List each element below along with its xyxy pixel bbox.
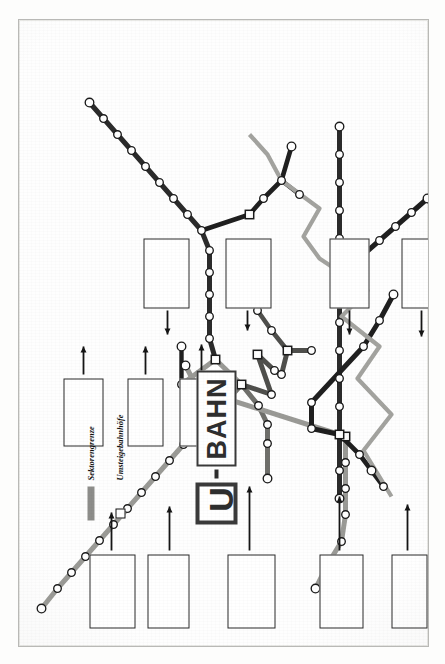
station-node[interactable]: [335, 178, 343, 186]
station-node[interactable]: [359, 342, 367, 350]
ubahn-map: Sektorengrenze Umsteigebahnhöfe U BAHN: [19, 20, 428, 646]
station-node[interactable]: [205, 290, 213, 298]
station-node[interactable]: [335, 374, 343, 382]
station-node[interactable]: [407, 208, 415, 216]
station-node[interactable]: [169, 194, 177, 202]
annotation-note: [319, 554, 363, 628]
station-node[interactable]: [197, 226, 205, 234]
station-node[interactable]: [267, 390, 275, 398]
interchange-station-node[interactable]: [253, 350, 261, 358]
station-node[interactable]: [267, 326, 275, 334]
annotation-arrow: [142, 346, 148, 374]
annotation-arrow: [346, 310, 352, 334]
annotation-note: [401, 238, 429, 308]
station-node[interactable]: [335, 346, 343, 354]
station-node[interactable]: [307, 424, 315, 432]
station-node[interactable]: [295, 190, 303, 198]
station-node[interactable]: [307, 346, 315, 354]
annotation-note: [329, 238, 369, 308]
station-node[interactable]: [335, 466, 343, 474]
annotation-note: [391, 554, 427, 628]
station-node[interactable]: [205, 312, 213, 320]
station-node[interactable]: [137, 488, 145, 496]
ubahn-logo: U BAHN: [187, 324, 247, 524]
station-node[interactable]: [95, 536, 103, 544]
map-rotation-wrapper: Sektorengrenze Umsteigebahnhöfe U BAHN: [19, 20, 428, 646]
station-node[interactable]: [263, 474, 272, 483]
annotation-note: [143, 238, 189, 308]
map-legend: Sektorengrenze Umsteigebahnhöfe: [47, 320, 137, 520]
station-node[interactable]: [335, 122, 344, 131]
map-paper: Sektorengrenze Umsteigebahnhöfe U BAHN: [18, 19, 429, 647]
logo-u-glyph: U: [199, 478, 241, 520]
station-node[interactable]: [254, 401, 262, 409]
station-node[interactable]: [165, 456, 173, 464]
legend-sector-label: Sektorengrenze: [85, 426, 95, 480]
station-node[interactable]: [337, 537, 345, 545]
screenshot-canvas: Sektorengrenze Umsteigebahnhöfe U BAHN: [0, 0, 445, 664]
annotation-arrow: [164, 310, 170, 334]
station-node[interactable]: [205, 268, 213, 276]
interchange-station-node[interactable]: [283, 346, 291, 354]
legend-sector-bar: [87, 486, 94, 520]
station-node[interactable]: [263, 439, 271, 447]
station-node[interactable]: [155, 178, 163, 186]
station-node[interactable]: [391, 222, 399, 230]
logo-bahn-text: BAHN: [201, 377, 232, 459]
station-node[interactable]: [99, 114, 107, 122]
station-node[interactable]: [335, 318, 343, 326]
station-node[interactable]: [127, 146, 135, 154]
station-node[interactable]: [37, 604, 46, 613]
station-node[interactable]: [263, 420, 271, 428]
station-node[interactable]: [183, 210, 191, 218]
station-node[interactable]: [141, 162, 149, 170]
station-node[interactable]: [389, 290, 398, 299]
station-node[interactable]: [335, 150, 343, 158]
logo-u-box: U: [195, 482, 237, 524]
station-node[interactable]: [355, 450, 363, 458]
interchange-station-node[interactable]: [245, 210, 253, 218]
station-node[interactable]: [109, 520, 117, 528]
station-node[interactable]: [277, 370, 285, 378]
station-node[interactable]: [341, 484, 349, 492]
station-node[interactable]: [311, 584, 320, 593]
station-node[interactable]: [270, 366, 278, 374]
station-node[interactable]: [81, 552, 89, 560]
station-node[interactable]: [367, 466, 376, 475]
station-node[interactable]: [53, 584, 61, 592]
station-node[interactable]: [113, 130, 121, 138]
station-node[interactable]: [423, 194, 429, 203]
station-node[interactable]: [335, 206, 343, 214]
legend-interchange-label: Umsteigebahnhöfe: [114, 414, 124, 480]
station-node[interactable]: [341, 458, 349, 466]
station-node[interactable]: [375, 316, 383, 324]
station-node[interactable]: [151, 472, 159, 480]
station-node[interactable]: [341, 510, 349, 518]
station-node[interactable]: [205, 246, 213, 254]
annotation-note: [227, 554, 275, 628]
station-node[interactable]: [67, 568, 75, 576]
legend-interchange-square: [115, 508, 125, 518]
annotation-note: [147, 554, 189, 628]
station-node[interactable]: [287, 142, 296, 151]
annotation-note: [89, 554, 135, 628]
station-node[interactable]: [277, 176, 285, 184]
annotation-note: [225, 238, 271, 308]
station-node[interactable]: [259, 194, 267, 202]
logo-dash: [214, 469, 218, 478]
interchange-station-node[interactable]: [335, 430, 343, 438]
annotation-arrow: [418, 310, 424, 336]
station-node[interactable]: [335, 402, 343, 410]
station-node[interactable]: [375, 236, 383, 244]
annotation-arrow: [404, 504, 410, 550]
station-node[interactable]: [379, 482, 387, 490]
annotation-arrow: [166, 506, 172, 550]
station-node[interactable]: [85, 98, 94, 107]
station-node[interactable]: [177, 342, 186, 351]
station-node[interactable]: [307, 398, 315, 406]
logo-bahn-box: BAHN: [196, 370, 236, 466]
